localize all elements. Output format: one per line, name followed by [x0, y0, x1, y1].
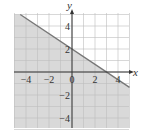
x-tick-label: 0 — [70, 74, 75, 85]
x-axis-label: x — [132, 66, 138, 78]
y-tick-label: 2 — [65, 44, 70, 55]
x-tick-label: −2 — [44, 74, 55, 85]
x-tick-label: 2 — [93, 74, 98, 85]
x-tick-label: −4 — [21, 74, 32, 85]
graph: −4−202442−2−4 x y — [0, 0, 141, 137]
y-tick-label: −4 — [59, 113, 70, 124]
y-tick-label: 4 — [65, 21, 70, 32]
y-axis-label: y — [66, 0, 72, 11]
y-tick-label: −2 — [59, 90, 70, 101]
x-tick-label: 4 — [116, 74, 121, 85]
